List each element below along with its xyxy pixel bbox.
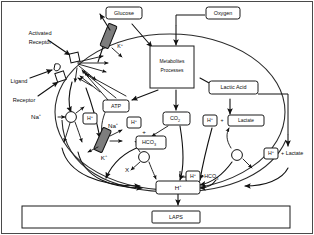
k-bottom-label: K+ [101, 154, 108, 161]
k-bottom-superscript: + [105, 154, 108, 158]
hco3-subscript: 3 [154, 143, 156, 147]
glucose-label: Glucose [114, 10, 134, 16]
arrow-mct-in [227, 128, 231, 148]
laps-label: LAPS [169, 214, 183, 220]
oxygen-box: Oxygen [206, 7, 240, 19]
na-left-label: Na+ [31, 113, 42, 120]
activated-receptor-label-line2: Receptor [29, 39, 52, 45]
converge-arrow-3 [86, 74, 126, 96]
atp-box: ATP [103, 100, 129, 112]
metabolites-processes-box: Metabolites Processes [150, 46, 194, 88]
arrow-h-out-nhe [76, 107, 84, 113]
sodium-potassium-atpase [94, 127, 112, 153]
inner-h-plus-box: H+ [203, 115, 217, 126]
metabolites-label-line1: Metabolites [159, 59, 185, 64]
h-plus-box-interstitium: H+ [156, 181, 200, 194]
k-top-label: K+ [117, 43, 123, 49]
hco3-box: HCO3 [136, 136, 166, 149]
arrow-hco3-down [106, 146, 142, 178]
sodium-hydrogen-exchanger [66, 112, 77, 123]
na-mid-superscript: + [116, 122, 119, 126]
arrow-ae-out-down [149, 162, 156, 179]
h-plus-box-cytosol: H+ [127, 117, 141, 128]
converge-arrow-1 [82, 70, 108, 100]
outer-lactate-label: + Lactate [281, 150, 303, 156]
outer-h-plus-box: H+ [264, 148, 278, 159]
co2-subscript: 2 [178, 119, 180, 123]
co2-box: CO2 [163, 112, 190, 125]
arrow-receptor-to-nhe [69, 82, 72, 112]
arrow-ligand-pointer [30, 70, 52, 78]
h-plus-hco3-box: H+ [186, 171, 200, 182]
x-marker-label: X [125, 166, 129, 173]
arrow-mct-out [243, 159, 252, 168]
hco3-suffix-subscript: 3 [216, 177, 218, 181]
arrow-nhe-down-2 [75, 122, 82, 142]
inner-lactate-box: Lactate [228, 115, 264, 126]
k-top-superscript: + [121, 43, 124, 47]
hco3-label: HCO [142, 139, 154, 145]
arrow-nhe-down-1 [64, 123, 70, 142]
na-mid-label: Na+ [108, 122, 119, 129]
h-plus-box-membrane-left: H+ [83, 113, 97, 124]
monocarboxylate-transporter [232, 150, 243, 161]
hco3-suffix-label: +HCO3 [201, 173, 218, 181]
co2-label: CO [170, 115, 178, 121]
receptor-label: Receptor [13, 97, 36, 103]
arrow-na-out-pump [110, 130, 122, 136]
arrow-outer-lactate-down [245, 168, 288, 186]
converge-arrow-4 [80, 76, 100, 92]
na-left-superscript: + [39, 113, 42, 117]
signal-arrow-5 [75, 68, 77, 82]
metabolites-label-line2: Processes [161, 68, 184, 73]
ligand-glyph [54, 64, 60, 71]
ligand-label: Ligand [11, 78, 28, 84]
laps-container: LAPS [22, 206, 290, 228]
anion-exchanger [139, 152, 150, 163]
center-plus-sign: + [142, 128, 146, 135]
glucose-box: Glucose [106, 7, 142, 19]
arrow-co2-hco3 [152, 126, 168, 136]
arrow-inner-lactate-down [200, 128, 212, 180]
arrow-receptor-pointer [38, 82, 58, 96]
cell-metabolism-diagram: Glucose Oxygen Metabolites Processes Lac… [0, 0, 314, 235]
activated-receptor-label-line1: Activated [28, 30, 51, 36]
arrow-ae-out-x [131, 162, 140, 170]
oxygen-label: Oxygen [214, 10, 233, 16]
inner-plus-sign: + [220, 117, 223, 123]
inner-lactate-label: Lactate [238, 118, 254, 123]
atp-label: ATP [111, 103, 121, 109]
arrow-metabolites-atp [132, 90, 158, 100]
lactic-acid-box: Lactic Acid [209, 81, 258, 94]
connector-oxygen [176, 15, 205, 26]
receptor-activated [69, 52, 80, 63]
lactic-acid-label: Lactic Acid [221, 84, 247, 90]
